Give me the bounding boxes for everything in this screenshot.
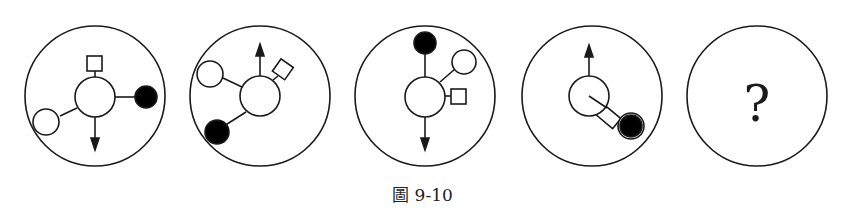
square-icon — [451, 89, 466, 104]
black-dot-icon — [135, 86, 157, 108]
black-dot-icon — [205, 120, 229, 144]
panel-4 — [522, 26, 662, 166]
figure-caption: 圖 9-10 — [0, 181, 845, 206]
white-circle-icon — [197, 61, 223, 87]
square-icon — [87, 56, 102, 71]
white-circle-icon — [452, 50, 476, 74]
center-circle — [75, 77, 115, 117]
black-dot-icon — [620, 115, 642, 137]
panel-2 — [190, 26, 330, 166]
question-mark: ? — [744, 75, 771, 133]
figure-9-10: ? — [0, 0, 845, 180]
panel-1 — [25, 26, 165, 166]
white-circle-icon — [33, 109, 59, 135]
panel-5: ? — [687, 26, 827, 166]
black-dot-icon — [414, 32, 436, 54]
panel-3 — [355, 26, 495, 166]
center-circle — [405, 77, 445, 117]
center-circle — [240, 76, 280, 116]
